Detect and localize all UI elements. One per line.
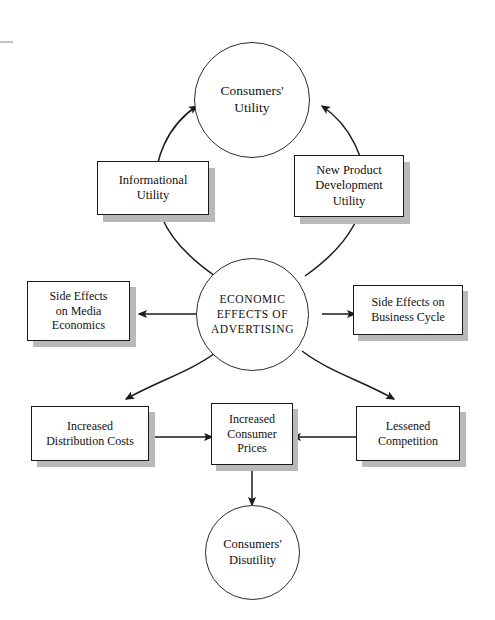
node-consumers-disutility[interactable]: Consumers' Disutility [205,505,300,600]
node-lessened-competition[interactable]: Lessened Competition [356,406,460,461]
scan-artifact-mark [0,41,13,43]
node-increased-consumer-prices-label: Increased Consumer Prices [212,412,292,456]
node-increased-distribution-costs-label: Increased Distribution Costs [32,419,148,448]
node-consumers-utility-label: Consumers' Utility [195,83,309,117]
edge-effects-to-lessened-competition [302,351,394,399]
node-informational-utility[interactable]: Informational Utility [97,161,209,215]
node-lessened-competition-label: Lessened Competition [357,419,459,448]
node-consumers-disutility-label: Consumers' Disutility [206,537,299,568]
node-consumers-utility[interactable]: Consumers' Utility [194,42,310,158]
node-economic-effects-of-advertising[interactable]: ECONOMIC EFFECTS OF ADVERTISING [196,258,309,371]
node-new-product-development-utility-label: New Product Development Utility [295,163,403,209]
node-economic-effects-label: ECONOMIC EFFECTS OF ADVERTISING [197,292,308,337]
node-increased-distribution-costs[interactable]: Increased Distribution Costs [31,406,149,461]
node-informational-utility-label: Informational Utility [98,173,208,204]
edge-effects-to-distribution-costs [126,351,218,399]
diagram-canvas: Consumers' Utility Informational Utility… [0,0,495,620]
node-increased-consumer-prices[interactable]: Increased Consumer Prices [211,403,293,465]
node-side-effects-media-label: Side Effects on Media Economics [28,289,129,333]
node-side-effects-on-media-economics[interactable]: Side Effects on Media Economics [27,281,130,341]
node-new-product-development-utility[interactable]: New Product Development Utility [294,155,404,217]
node-side-effects-on-business-cycle[interactable]: Side Effects on Business Cycle [353,285,463,335]
node-side-effects-business-cycle-label: Side Effects on Business Cycle [354,295,462,324]
